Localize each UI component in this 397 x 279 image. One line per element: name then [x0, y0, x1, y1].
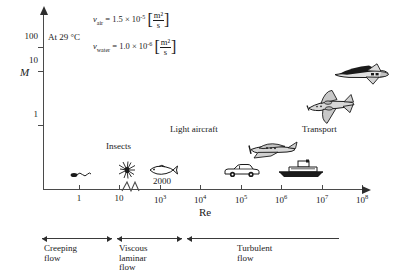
viscous-laminar-flow-label-line1: Viscous — [119, 244, 147, 254]
flow-regime-chart: M Re 100 10 1 1 10 103 104 105 106 107 1… — [0, 0, 397, 279]
x-tick-label-1e3: 103 — [150, 193, 170, 205]
propeller-plane-icon — [245, 137, 299, 162]
nu-air-unit-denominator: s — [153, 21, 164, 30]
ship-icon — [277, 159, 325, 179]
creeping-flow-label-line1: Creeping — [44, 244, 77, 254]
nu-air-mantissa: 1.5 — [112, 14, 123, 24]
x-tick-label-1: 1 — [69, 193, 89, 203]
sperm-icon — [70, 169, 92, 179]
x-tick-label-1e8-base: 10 — [356, 195, 365, 205]
x-tick-label-1e8: 108 — [352, 193, 372, 205]
y-tick-label-10: 10 — [14, 55, 38, 65]
turbulent-flow-label-line2: flow — [237, 254, 272, 264]
x-tick-label-1e4: 104 — [190, 193, 210, 205]
x-tick-label-1e6-base: 10 — [275, 195, 284, 205]
y-tick-label-1: 1 — [14, 109, 38, 119]
nu-water-equals: = — [112, 41, 117, 51]
light-aircraft-label: Light aircraft — [170, 124, 218, 134]
x-tick-1e6 — [281, 185, 282, 189]
x-tick-1e4 — [200, 185, 201, 189]
space-shuttle-icon — [333, 61, 391, 87]
x-tick-label-10: 10 — [109, 193, 129, 203]
x-tick-label-1e4-base: 10 — [194, 195, 203, 205]
jet-airliner-icon — [301, 88, 357, 126]
nu-water-unit: m²s — [160, 38, 171, 57]
y-tick-label-100: 100 — [14, 31, 38, 41]
nu-water-mantissa: 1.0 — [119, 41, 130, 51]
x-tick-label-1e3-base: 10 — [154, 195, 163, 205]
turbulent-flow-arrow — [187, 238, 339, 239]
creeping-flow-label-line2: flow — [44, 254, 77, 264]
x-tick-label-1e7-exp: 7 — [325, 193, 328, 200]
car-icon — [223, 163, 261, 178]
nu-water-exponent: -6 — [147, 41, 152, 47]
x-tick-1e5 — [241, 185, 242, 189]
insect-icon — [117, 160, 137, 180]
x-axis-break-icon — [122, 180, 140, 192]
nu-water-subscript: water — [97, 47, 110, 53]
x-tick-10 — [119, 185, 120, 189]
viscous-laminar-flow-arrow-right — [177, 236, 182, 242]
y-axis-line — [43, 13, 44, 190]
temperature-note: At 29 °C — [48, 32, 80, 42]
x-tick-1e7 — [322, 185, 323, 189]
nu-air-unit: m²s — [153, 11, 164, 30]
creeping-flow-arrow-left — [42, 236, 47, 242]
nu-water-times: × — [132, 41, 137, 51]
x-tick-label-1e3-exp: 3 — [163, 193, 166, 200]
creeping-flow-label: Creeping flow — [44, 244, 77, 263]
x-tick-1 — [79, 185, 80, 189]
transition-value-label: 2000 — [153, 176, 171, 186]
x-tick-label-1e8-exp: 8 — [365, 193, 368, 200]
y-axis-label: M — [20, 66, 29, 78]
fish-icon — [148, 163, 178, 177]
insects-label: Insects — [106, 141, 131, 151]
viscous-laminar-flow-arrow — [117, 238, 182, 239]
x-tick-label-1e5-base: 10 — [235, 195, 244, 205]
x-tick-label-1e7: 107 — [312, 193, 332, 205]
nu-water-bracket-close: ] — [171, 41, 176, 54]
x-tick-label-1e5: 105 — [231, 193, 251, 205]
y-tick-100 — [38, 47, 43, 48]
nu-water-unit-denominator: s — [160, 48, 171, 57]
y-axis-arrowhead — [40, 6, 48, 15]
x-tick-label-1e5-exp: 5 — [244, 193, 247, 200]
x-tick-label-1e4-exp: 4 — [203, 193, 206, 200]
nu-air-subscript: air — [97, 20, 103, 26]
y-tick-10 — [38, 71, 43, 72]
nu-air-formula: vair = 1.5 × 10-5 [m²s] — [93, 11, 169, 30]
viscous-laminar-flow-arrow-left — [117, 236, 122, 242]
viscous-laminar-flow-label: Viscous laminar flow — [119, 244, 147, 273]
nu-air-bracket-close: ] — [164, 14, 169, 27]
x-tick-label-1e7-base: 10 — [316, 195, 325, 205]
turbulent-flow-label: Turbulent flow — [237, 244, 272, 263]
turbulent-flow-arrow-left — [187, 236, 192, 242]
viscous-laminar-flow-label-line2: laminar — [119, 254, 147, 264]
creeping-flow-arrow — [42, 238, 112, 239]
x-axis-line — [43, 189, 365, 190]
x-tick-label-1-base: 1 — [77, 193, 82, 203]
x-axis-label: Re — [199, 206, 211, 218]
nu-air-equals: = — [105, 14, 110, 24]
nu-water-formula: vwater = 1.0 × 10-6 [m²s] — [93, 38, 176, 57]
x-tick-label-10-base: 10 — [115, 193, 124, 203]
x-tick-label-1e6: 106 — [271, 193, 291, 205]
viscous-laminar-flow-label-line3: flow — [119, 263, 147, 273]
creeping-flow-arrow-right — [107, 236, 112, 242]
turbulent-flow-label-line1: Turbulent — [237, 244, 272, 254]
nu-air-exponent: -5 — [140, 14, 145, 20]
y-tick-1 — [38, 125, 43, 126]
nu-air-times: × — [125, 14, 130, 24]
x-tick-label-1e6-exp: 6 — [284, 193, 287, 200]
